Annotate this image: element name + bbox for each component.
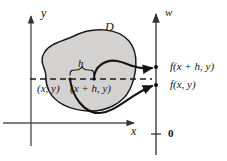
point-xhy-label: (x + h, y) [70, 83, 111, 94]
region-d-label: D [105, 21, 114, 33]
y-axis-label: y [41, 7, 46, 19]
value-fxy-dot [154, 83, 158, 87]
value-fxhy-dot [154, 65, 158, 69]
w-axis-label: w [165, 7, 172, 18]
x-axis-label: x [131, 125, 136, 137]
increment-h-label: h [78, 58, 84, 69]
value-fxy-label: f(x, y) [170, 79, 196, 90]
figure-container: y x w 0 D h (x, y) (x + h, y) f(x + h, y… [0, 0, 227, 161]
value-fxhy-label: f(x + h, y) [170, 61, 214, 72]
point-xy-label: (x, y) [37, 83, 60, 94]
w-axis-origin-label: 0 [168, 128, 174, 139]
